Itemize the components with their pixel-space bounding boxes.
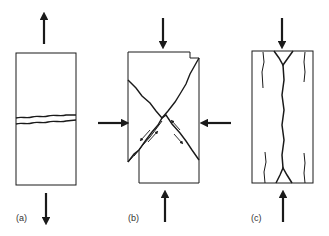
panel-b-label: (b) — [128, 213, 139, 223]
axial-split-right-lower — [304, 153, 305, 183]
failure-modes-diagram: (a) (b) (c) — [0, 0, 329, 236]
panel-c-label: (c) — [251, 213, 262, 223]
axial-split-left-lower — [264, 152, 266, 183]
axial-split-left-upper — [262, 52, 264, 88]
axial-split-bottom-wedge — [276, 168, 292, 183]
shear-fracture-1 — [128, 80, 199, 160]
shear-fracture-2 — [128, 58, 199, 162]
axial-split-right-upper — [304, 52, 305, 82]
shear-fracture-2-parallel — [134, 121, 162, 156]
axial-split-central — [282, 65, 284, 168]
shear-sense-arrow-icon — [174, 134, 182, 143]
panel-a-label: (a) — [16, 213, 27, 223]
panel-b: (b) — [98, 18, 231, 223]
panel-a: (a) — [16, 16, 76, 223]
tensile-crack-lower — [16, 120, 76, 124]
axial-split-top-wedge — [274, 51, 293, 65]
specimen-a — [16, 53, 76, 185]
panel-c: (c) — [251, 18, 313, 223]
tensile-crack-upper — [16, 115, 76, 118]
